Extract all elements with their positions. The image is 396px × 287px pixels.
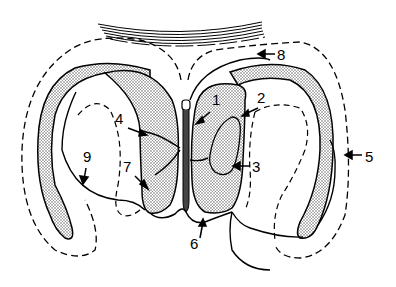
label-3: 3 [252, 158, 260, 175]
label-2: 2 [257, 89, 265, 106]
anatomical-diagram: 1 2 3 4 5 6 7 8 9 [0, 0, 396, 287]
label-1: 1 [212, 91, 220, 108]
label-6: 6 [190, 235, 198, 252]
label-4: 4 [115, 110, 123, 127]
inner-dashed-oval-right [255, 105, 308, 240]
top-striations [98, 22, 265, 46]
label-5: 5 [365, 148, 373, 165]
central-stalk [182, 100, 190, 212]
diagram-canvas: 1 2 3 4 5 6 7 8 9 [0, 0, 396, 287]
label-9: 9 [83, 148, 91, 165]
label-7: 7 [123, 158, 131, 175]
label-8: 8 [277, 46, 285, 63]
